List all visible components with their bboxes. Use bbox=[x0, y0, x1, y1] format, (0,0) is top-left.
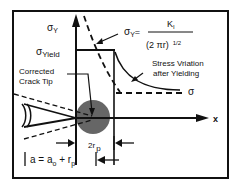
x-axis-label: x bbox=[213, 114, 218, 124]
crack-tip-diagram: σY σYield Corrected Crack Tip σY= KI (2 … bbox=[0, 0, 238, 189]
diagram-frame bbox=[13, 11, 228, 178]
equation-pointer-arrowhead bbox=[96, 38, 103, 44]
corrected-crack-tip-label: Corrected Crack Tip bbox=[19, 67, 56, 86]
plastic-zone-width-label: 2rp bbox=[88, 141, 101, 153]
far-field-sigma-label: σ bbox=[188, 86, 195, 97]
equation-lhs: σY= bbox=[124, 26, 140, 38]
equation-denominator: (2 πr)1/2 bbox=[146, 40, 182, 50]
crack-notch-inner bbox=[27, 104, 31, 127]
plastic-zone-dim-left-arrowhead bbox=[68, 139, 75, 147]
yield-label: σYield bbox=[36, 46, 60, 59]
plastic-zone-dim-right-arrowhead bbox=[115, 139, 122, 147]
plastic-zone-circle bbox=[76, 100, 110, 134]
y-axis-arrowhead bbox=[72, 14, 80, 27]
crack-length-dim-arrowhead bbox=[97, 156, 105, 164]
y-axis-label: σY bbox=[47, 22, 58, 34]
x-axis-arrowhead bbox=[196, 114, 209, 122]
equation-pointer-arrow bbox=[100, 34, 118, 42]
stress-variation-label: Stress Vriation after Yielding bbox=[152, 59, 206, 78]
crack-notch-outer bbox=[22, 104, 26, 127]
crack-length-label: a = ao + rp bbox=[30, 154, 75, 168]
equation-numerator: KI bbox=[167, 19, 175, 30]
crack-wedge bbox=[24, 104, 76, 127]
